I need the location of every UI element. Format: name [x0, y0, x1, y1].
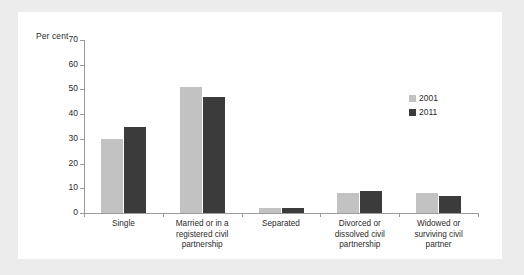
bar-2011-1	[124, 127, 146, 214]
y-axis-line	[84, 40, 85, 213]
bar-2011-4	[360, 191, 382, 213]
legend-item-2001[interactable]: 2001	[409, 91, 438, 105]
y-axis-tick-mark	[80, 40, 84, 41]
x-axis-category-label: Widowed or surviving civil partner	[399, 219, 478, 251]
x-axis-separator-tick	[163, 213, 164, 217]
chart-panel: Per cent 010203040506070 SingleMarried o…	[18, 12, 502, 259]
y-axis-tick-label: 20	[69, 158, 78, 168]
figure-root: Per cent 010203040506070 SingleMarried o…	[0, 0, 524, 275]
y-axis-tick-label: 40	[69, 108, 78, 118]
y-axis-tick-label: 60	[69, 59, 78, 69]
y-axis-tick-mark	[80, 89, 84, 90]
y-axis-tick-mark	[80, 65, 84, 66]
plot-area: 010203040506070 SingleMarried or in a re…	[84, 40, 478, 213]
x-axis-line	[84, 213, 478, 214]
x-axis-separator-tick	[242, 213, 243, 217]
x-axis-separator-tick	[478, 213, 479, 217]
y-axis-tick-label: 50	[69, 83, 78, 93]
y-axis-tick-label: 10	[69, 182, 78, 192]
x-axis-separator-tick	[84, 213, 85, 217]
y-axis-tick-label: 70	[69, 34, 78, 44]
bar-2001-3	[259, 208, 281, 213]
y-axis-tick-mark	[80, 114, 84, 115]
legend-item-2011[interactable]: 2011	[409, 105, 438, 119]
bar-2011-5	[439, 196, 461, 213]
bar-2011-3	[282, 208, 304, 213]
bar-2001-1	[101, 139, 123, 213]
y-axis-tick-label: 0	[73, 207, 78, 217]
legend-label: 2011	[419, 107, 437, 117]
y-axis-tick-mark	[80, 188, 84, 189]
legend-label: 2001	[419, 93, 438, 103]
x-axis-category-label: Married or in a registered civil partner…	[163, 219, 242, 251]
y-axis-tick-mark	[80, 139, 84, 140]
x-axis-category-label: Single	[84, 219, 163, 230]
y-axis-unit-caption: Per cent	[36, 31, 68, 41]
chart-legend: 20012011	[409, 91, 438, 119]
bar-2001-5	[416, 193, 438, 213]
legend-swatch-icon	[409, 95, 416, 102]
bar-2011-2	[203, 97, 225, 213]
x-axis-separator-tick	[320, 213, 321, 217]
x-axis-category-label: Separated	[242, 219, 321, 230]
bar-2001-2	[180, 87, 202, 213]
y-axis-tick-label: 30	[69, 133, 78, 143]
x-axis-separator-tick	[399, 213, 400, 217]
legend-swatch-icon	[409, 109, 416, 116]
bar-2001-4	[337, 193, 359, 213]
y-axis-tick-mark	[80, 164, 84, 165]
x-axis-category-label: Divorced or dissolved civil partnership	[320, 219, 399, 251]
